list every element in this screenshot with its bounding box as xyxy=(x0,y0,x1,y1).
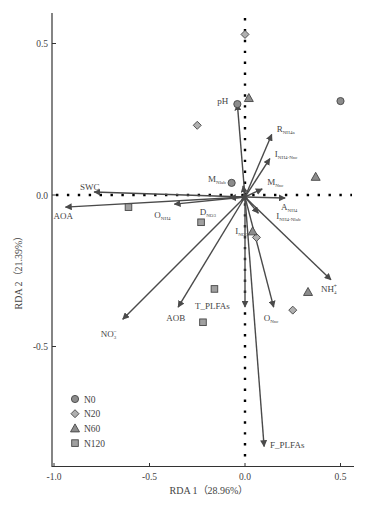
legend-item-n120: N120 xyxy=(72,439,106,449)
rda-biplot: -1.0-0.50.00.50.50.0-0.5 pHRNH4aINH4-Nnc… xyxy=(0,0,366,511)
x-tick-label: 0.0 xyxy=(239,472,251,482)
vector-label: NO3− xyxy=(101,328,118,340)
vector-label: SWC xyxy=(80,182,100,192)
x-tick-label: 0.5 xyxy=(335,472,347,482)
x-tick-label: -1.0 xyxy=(46,472,61,482)
vector-label: pH xyxy=(217,96,229,106)
vector-label: MNnc xyxy=(267,177,284,188)
vector-label: RNH4a xyxy=(277,124,296,135)
diamond-icon xyxy=(71,410,79,418)
vector-label: DNO3 xyxy=(200,207,217,218)
arrow-line xyxy=(65,197,245,207)
vector-label: AOB xyxy=(166,313,185,323)
sample-points xyxy=(125,30,344,325)
y-tick-label: 0.0 xyxy=(36,191,48,201)
vector-label: ANH4 xyxy=(281,202,298,213)
vector-label: INO3 xyxy=(235,226,248,237)
vector-label: MNlab xyxy=(208,174,226,185)
arrow-line xyxy=(94,192,245,197)
n20-diamond-marker xyxy=(193,121,201,129)
n120-square-marker xyxy=(125,204,132,211)
n20-diamond-marker xyxy=(241,30,249,38)
x-axis-label: RDA 1（28.96%） xyxy=(170,485,249,496)
vector-label: INH4-Nnc xyxy=(275,149,298,160)
vector-aoa: AOA xyxy=(53,197,245,221)
n120-square-marker xyxy=(198,219,205,226)
zero-reference-lines xyxy=(56,18,352,464)
vector-label: NH4+ xyxy=(321,283,338,295)
vector-label: ONnc xyxy=(264,313,280,324)
environment-vectors: pHRNH4aINH4-NncMNlabMNncANH4INH4-NlabSWC… xyxy=(53,96,337,450)
vector-label: T_PLFAs xyxy=(195,301,230,311)
y-tick-label: 0.5 xyxy=(36,39,48,49)
n0-circle-marker xyxy=(228,179,235,186)
n120-square-marker xyxy=(200,319,207,326)
n0-circle-marker xyxy=(337,97,344,104)
n20-diamond-marker xyxy=(289,306,297,314)
vector-m-nlab: MNlab xyxy=(208,174,245,197)
x-tick-label: -0.5 xyxy=(142,472,157,482)
legend-label: N60 xyxy=(84,424,101,434)
legend-label: N0 xyxy=(84,395,96,405)
arrow-line xyxy=(245,134,272,197)
legend-label: N20 xyxy=(84,409,101,419)
triangle-icon xyxy=(71,424,80,432)
y-tick-label: -0.5 xyxy=(33,342,48,352)
vector-label: AOA xyxy=(53,211,73,221)
y-axis-label: RDA 2（21.39%） xyxy=(13,231,24,310)
circle-icon xyxy=(71,395,78,402)
n60-triangle-marker xyxy=(248,227,257,235)
plot-area: -1.0-0.50.00.50.50.0-0.5 pHRNH4aINH4-Nnc… xyxy=(0,0,366,511)
n120-square-marker xyxy=(211,286,218,293)
n0-circle-marker xyxy=(234,101,241,108)
legend-item-n0: N0 xyxy=(71,395,95,405)
legend-label: N120 xyxy=(84,439,105,449)
legend: N0N20N60N120 xyxy=(71,395,106,449)
vector-i-nh4-nnc: INH4-Nnc xyxy=(245,149,298,197)
legend-item-n60: N60 xyxy=(71,424,101,434)
legend-item-n20: N20 xyxy=(71,409,101,419)
vector-label: F_PLFAs xyxy=(270,440,305,450)
n60-triangle-marker xyxy=(304,287,313,295)
axes: -1.0-0.50.00.50.50.0-0.5 xyxy=(33,13,354,482)
vector-label: ONH4 xyxy=(154,210,171,221)
arrow-line xyxy=(245,197,285,198)
n60-triangle-marker xyxy=(311,172,320,180)
square-icon xyxy=(72,440,79,447)
